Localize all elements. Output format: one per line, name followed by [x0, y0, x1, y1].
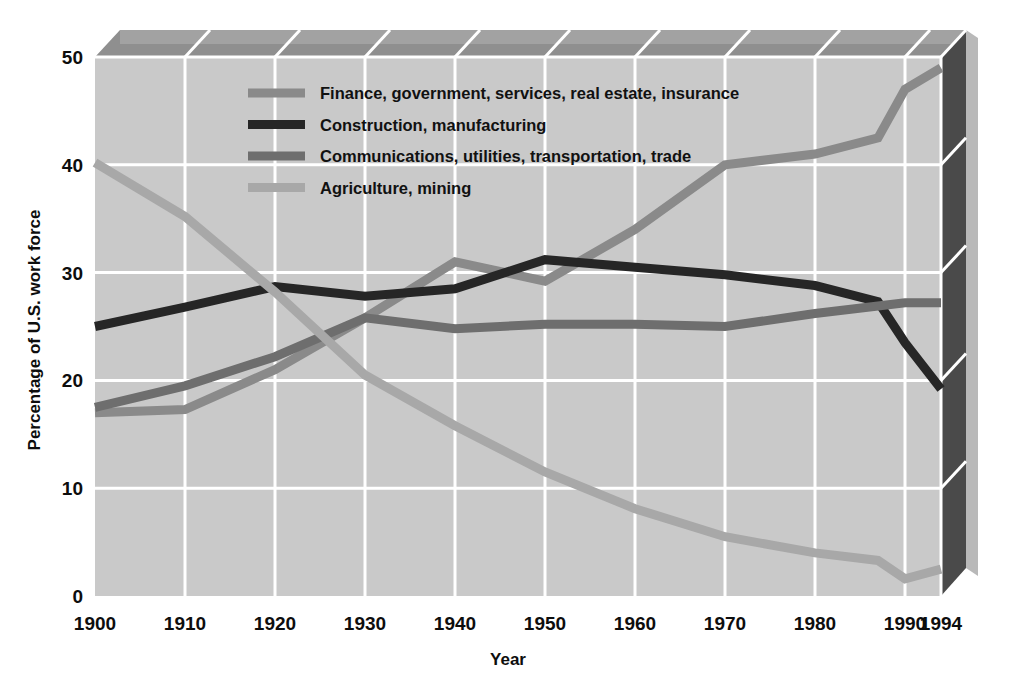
x-tick-label: 1940: [434, 613, 476, 634]
legend-label-3: Agriculture, mining: [320, 179, 471, 197]
plot-3d-right-shadow: [966, 30, 978, 576]
y-tick-label: 40: [62, 155, 83, 176]
x-tick-label: 1910: [164, 613, 206, 634]
x-axis-title: Year: [490, 650, 526, 669]
chart-figure: 01020304050 1900191019201930194019501960…: [0, 0, 1012, 686]
x-tick-label: 1900: [74, 613, 116, 634]
x-tick-label: 1920: [254, 613, 296, 634]
x-tick-label: 1994: [920, 613, 963, 634]
y-tick-label: 20: [62, 370, 83, 391]
work-force-line-chart: 01020304050 1900191019201930194019501960…: [0, 0, 1012, 686]
legend-label-2: Communications, utilities, transportatio…: [320, 147, 691, 165]
x-tick-label: 1980: [794, 613, 836, 634]
y-tick-label: 30: [62, 263, 83, 284]
y-tick-label: 10: [62, 478, 83, 499]
legend-label-1: Construction, manufacturing: [320, 116, 546, 134]
plot-3d-right-panel: [941, 30, 966, 596]
legend-label-0: Finance, government, services, real esta…: [320, 84, 739, 102]
y-tick-label: 0: [72, 586, 83, 607]
x-tick-label: 1960: [614, 613, 656, 634]
x-tick-label: 1970: [704, 613, 746, 634]
x-tick-label: 1950: [524, 613, 566, 634]
y-tick-label: 50: [62, 47, 83, 68]
x-tick-label: 1930: [344, 613, 386, 634]
y-axis-title: Percentage of U.S. work force: [25, 210, 44, 451]
